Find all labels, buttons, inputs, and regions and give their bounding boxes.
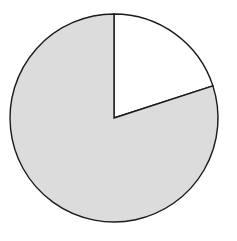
pie-chart-svg	[0, 0, 237, 241]
pie-chart	[0, 0, 237, 241]
